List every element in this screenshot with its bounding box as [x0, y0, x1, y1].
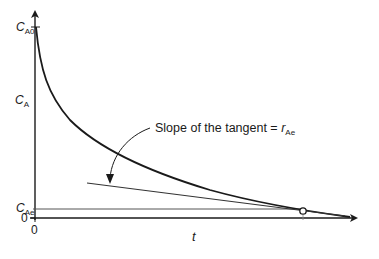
ca-axis-label: CA — [15, 93, 29, 109]
y-zero-label: 0 — [21, 211, 28, 225]
annotation-arrowhead — [106, 174, 114, 184]
ca-var: C — [15, 93, 24, 107]
ca0-var: C — [16, 20, 25, 34]
slope-annotation-text: Slope of the tangent = — [155, 121, 281, 135]
slope-annotation-sub: Ae — [285, 128, 295, 137]
t-axis-label: t — [192, 229, 196, 244]
ca-sub: A — [24, 100, 29, 109]
slope-annotation: Slope of the tangent = rAe — [155, 121, 295, 137]
ca0-label: CA0 — [16, 20, 34, 36]
tangent-point-marker — [300, 208, 306, 214]
x-zero-label: 0 — [31, 223, 38, 237]
ca0-sub: A0 — [25, 27, 35, 36]
